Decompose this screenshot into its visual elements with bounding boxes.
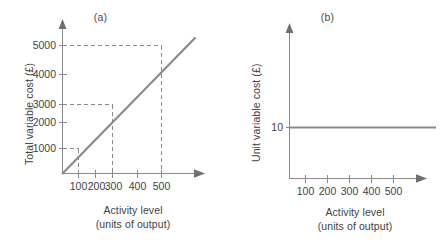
panel-a-y-axis-title: Total variable cost (£) [23, 63, 35, 165]
panel-b-y-axis-title: Unit variable cost (£) [250, 64, 262, 162]
panel-b-x-caption-line2: (units of output) [290, 219, 420, 233]
y-axis-arrow-a [59, 19, 67, 29]
series-total-variable-cost [63, 38, 196, 174]
y-tick-label-2000: 2000 [16, 116, 56, 128]
y-axis-arrow-b [286, 23, 294, 33]
y-tick-label-1000: 1000 [16, 142, 56, 154]
x-tick-label-500: 500 [147, 180, 176, 192]
x-tick-label-b-500: 500 [379, 185, 408, 197]
figure-container: (a) [0, 0, 442, 247]
panel-a-x-caption-line2: (units of output) [68, 217, 198, 231]
x-axis-arrow-a [194, 169, 205, 177]
y-tick-label-3000: 3000 [16, 98, 56, 110]
panel-b-x-axis-caption: Activity level (units of output) [290, 205, 420, 233]
panel-b-x-caption-line1: Activity level [290, 205, 420, 219]
panel-a-x-caption-line1: Activity level [68, 203, 198, 217]
panel-a-x-axis-caption: Activity level (units of output) [68, 203, 198, 231]
x-axis-arrow-b [416, 174, 427, 182]
y-tick-label-5000: 5000 [16, 39, 56, 51]
y-tick-label-4000: 4000 [16, 68, 56, 80]
